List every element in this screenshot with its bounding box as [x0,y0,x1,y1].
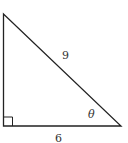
right-angle-marker [4,117,13,126]
right-triangle-diagram: 9 θ 6 [0,0,128,143]
base-label: 6 [55,132,62,143]
angle-theta-label: θ [88,108,95,121]
hypotenuse-label: 9 [62,49,69,62]
triangle [4,14,122,126]
